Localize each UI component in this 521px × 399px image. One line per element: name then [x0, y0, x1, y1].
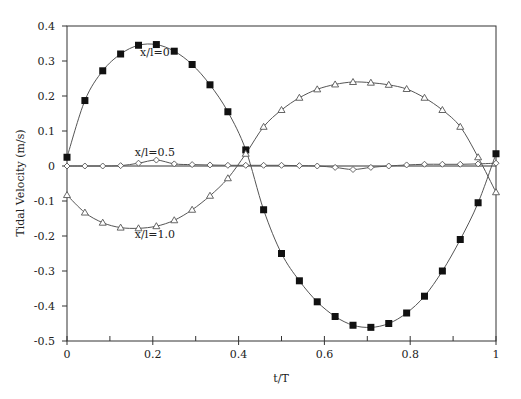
triangle-marker	[421, 94, 428, 100]
x-tick-label: 1	[493, 348, 500, 361]
square-marker	[475, 199, 482, 206]
diamond-marker	[386, 163, 392, 169]
diamond-marker	[279, 162, 285, 168]
diamond-marker	[100, 163, 106, 169]
square-marker	[385, 320, 392, 327]
triangle-marker	[439, 107, 446, 113]
diamond-marker	[189, 162, 195, 168]
x-tick-label: 0.6	[316, 348, 334, 361]
y-tick-label: 0.3	[38, 55, 56, 68]
triangle-marker	[493, 189, 500, 195]
y-tick-label: -0.2	[34, 230, 55, 243]
diamond-marker	[261, 162, 267, 168]
series-label: x/l=1.0	[135, 228, 175, 241]
square-marker	[493, 150, 500, 157]
square-marker	[403, 310, 410, 317]
diamond-marker	[314, 163, 320, 169]
square-marker	[206, 81, 213, 88]
y-tick-label: 0.4	[38, 20, 56, 33]
triangle-marker	[278, 107, 285, 113]
square-marker	[189, 61, 196, 68]
series-line-x-l-1-0	[67, 82, 496, 228]
x-tick-label: 0.4	[230, 348, 248, 361]
diamond-marker	[82, 163, 88, 169]
diamond-marker	[64, 163, 70, 169]
series-line-x-l-0	[67, 44, 496, 327]
square-marker	[99, 67, 106, 74]
square-marker	[81, 97, 88, 104]
diamond-marker	[296, 163, 302, 169]
square-marker	[296, 277, 303, 284]
x-tick-label: 0	[64, 348, 71, 361]
diamond-marker	[118, 163, 124, 169]
square-marker	[439, 268, 446, 275]
square-marker	[224, 108, 231, 115]
square-marker	[117, 51, 124, 58]
inline-series-labels: x/l=0x/l=0.5x/l=1.0	[135, 46, 175, 241]
triangle-marker	[189, 206, 196, 212]
square-marker	[64, 154, 71, 161]
square-marker	[171, 48, 178, 55]
diamond-marker	[404, 162, 410, 168]
diamond-marker	[136, 160, 142, 166]
square-marker	[457, 236, 464, 243]
plot-frame	[67, 26, 496, 341]
square-marker	[421, 293, 428, 300]
y-axis-title: Tidal Velocity (m/s)	[14, 129, 27, 236]
diamond-marker	[368, 164, 374, 170]
square-marker	[314, 298, 321, 305]
y-tick-label: 0.1	[38, 125, 56, 138]
x-tick-label: 0.8	[401, 348, 419, 361]
y-tick-label: 0.2	[38, 90, 56, 103]
series-lines	[67, 44, 496, 327]
triangle-marker	[99, 219, 106, 225]
square-marker	[350, 322, 357, 329]
diamond-marker	[350, 167, 356, 173]
x-tick-label: 0.2	[144, 348, 162, 361]
square-marker	[367, 324, 374, 331]
diamond-marker	[332, 164, 338, 170]
diamond-marker	[225, 162, 231, 168]
y-tick-label: -0.3	[34, 265, 55, 278]
triangle-marker	[296, 94, 303, 100]
y-tick-label: -0.4	[34, 300, 55, 313]
y-tick-label: -0.5	[34, 335, 55, 348]
square-marker	[332, 313, 339, 320]
triangle-marker	[64, 192, 71, 198]
x-axis-title: t/T	[273, 372, 289, 385]
tidal-velocity-chart: 0.40.30.20.10-0.1-0.2-0.3-0.4-0.500.20.4…	[0, 0, 521, 399]
square-marker	[260, 206, 267, 213]
triangle-marker	[171, 217, 178, 223]
triangle-marker	[475, 154, 482, 160]
y-tick-label: -0.1	[34, 195, 55, 208]
square-marker	[278, 250, 285, 257]
diamond-marker	[243, 162, 249, 168]
y-tick-label: 0	[48, 160, 55, 173]
series-label: x/l=0.5	[135, 146, 175, 159]
diamond-marker	[207, 162, 213, 168]
series-markers	[64, 41, 500, 331]
series-label: x/l=0	[140, 46, 170, 59]
